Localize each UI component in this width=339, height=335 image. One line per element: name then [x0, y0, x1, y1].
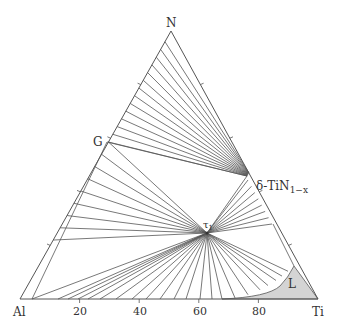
tau1-point	[206, 232, 209, 235]
phase-label-tau1: τ1	[203, 219, 213, 232]
tick-label-60: 60	[193, 305, 207, 318]
right-ticks	[200, 83, 291, 245]
phase-label-g: G	[93, 135, 103, 149]
triangle-outline	[20, 31, 318, 299]
phase-label-liquid: L	[288, 277, 296, 291]
vertex-label-al: Al	[12, 305, 26, 319]
liquid-region	[222, 266, 318, 299]
left-ticks	[47, 83, 141, 245]
vertex-label-ti: Ti	[312, 305, 324, 319]
phase-label-delta-tin: δ-TiN1−x	[256, 179, 308, 195]
bottom-ticks	[80, 299, 259, 303]
vertex-label-n: N	[166, 16, 177, 30]
tick-label-20: 20	[73, 305, 87, 318]
tick-label-80: 80	[252, 305, 266, 318]
ternary-phase-diagram: N Al Ti 20 40 60 80 G δ-TiN1−x τ1 L	[0, 0, 339, 335]
tie-lines	[32, 42, 294, 299]
tick-label-40: 40	[133, 305, 147, 318]
